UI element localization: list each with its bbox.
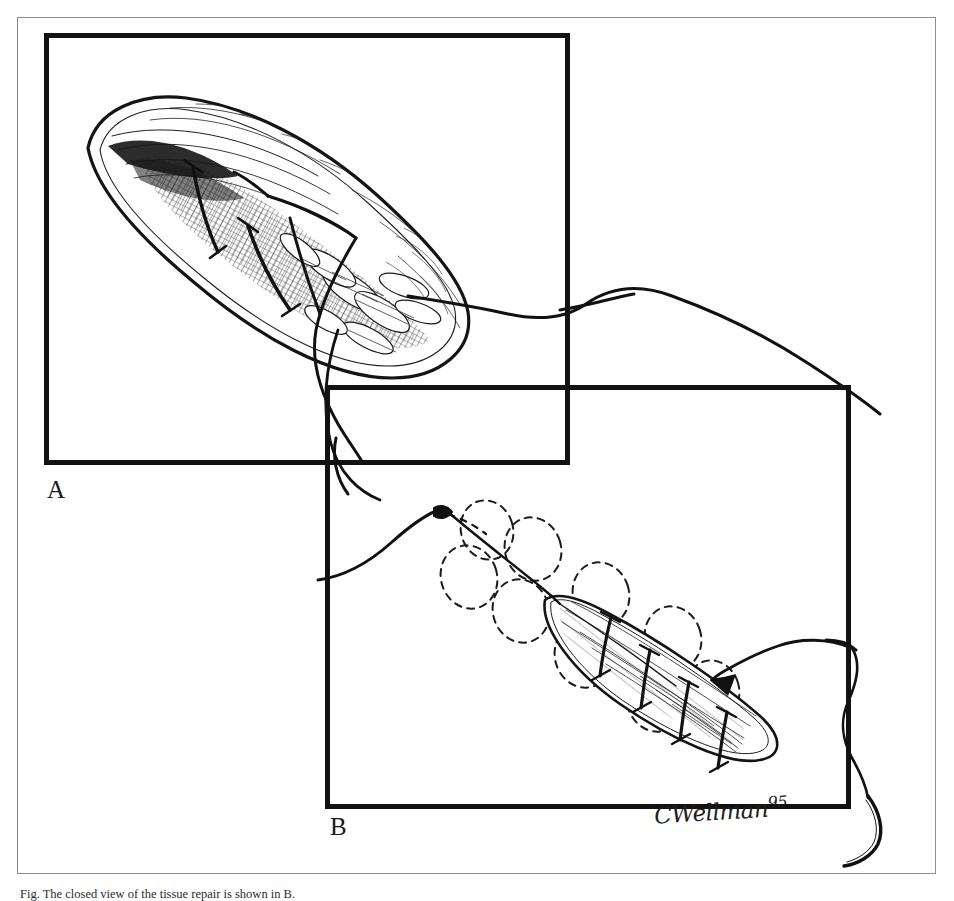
- figure-caption: Fig. The closed view of the tissue repai…: [20, 888, 935, 901]
- signature-year: 95: [767, 792, 787, 812]
- panel-label-a: A: [47, 477, 65, 502]
- panel-label-b: B: [330, 814, 347, 839]
- panel-b-frame: [325, 385, 851, 809]
